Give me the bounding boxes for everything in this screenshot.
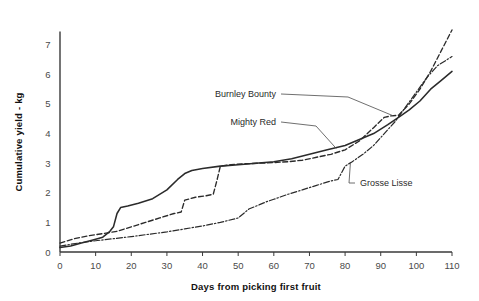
y-tick-label: 3 — [45, 158, 50, 169]
x-tick-label: 90 — [375, 260, 386, 271]
x-tick-label: 40 — [197, 260, 208, 271]
mighty-red-leader-line — [281, 122, 336, 148]
x-tick-labels: 0102030405060708090100110 — [57, 260, 459, 271]
x-axis-title: Days from picking first fruit — [191, 281, 321, 292]
x-tick-label: 20 — [126, 260, 137, 271]
y-tick-label: 5 — [45, 98, 50, 109]
x-tick-label: 50 — [233, 260, 244, 271]
y-tick-label: 0 — [45, 247, 50, 258]
x-tick-label: 30 — [162, 260, 173, 271]
x-tick-label: 70 — [304, 260, 315, 271]
y-tick-label: 7 — [45, 39, 50, 50]
y-axis-title: Cumulative yield - kg — [13, 92, 24, 191]
x-tick-label: 100 — [408, 260, 424, 271]
series-annotations: Burnley Bounty Mighty Red Grosse Lisse — [215, 89, 413, 188]
mighty-red-label: Mighty Red — [230, 117, 276, 127]
series-line-grosse-lisse — [60, 57, 452, 246]
y-tick-label: 2 — [45, 187, 50, 198]
y-tick-label: 4 — [45, 128, 50, 139]
grosse-lisse-label: Grosse Lisse — [360, 178, 413, 188]
x-tick-label: 110 — [444, 260, 459, 271]
x-tick-label: 0 — [57, 260, 62, 271]
burnley-bounty-leader-line — [281, 94, 393, 116]
axes-group — [60, 31, 452, 256]
chart-canvas: 0102030405060708090100110 01234567 Days … — [0, 0, 479, 301]
y-tick-labels: 01234567 — [45, 39, 50, 257]
y-tick-label: 1 — [45, 217, 50, 228]
series-group — [60, 30, 452, 248]
x-tick-label: 80 — [340, 260, 351, 271]
x-tick-label: 60 — [269, 260, 280, 271]
cumulative-yield-chart: 0102030405060708090100110 01234567 Days … — [0, 0, 479, 301]
burnley-bounty-label: Burnley Bounty — [215, 89, 277, 99]
grosse-lisse-leader-line — [349, 163, 355, 183]
y-tick-label: 6 — [45, 69, 50, 80]
x-tick-label: 10 — [90, 260, 101, 271]
